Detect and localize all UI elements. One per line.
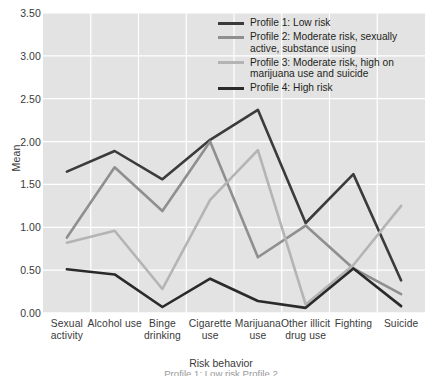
y-axis-title: Mean: [10, 128, 22, 188]
legend-item-3[interactable]: Profile 3: Moderate risk, high on mariju…: [218, 57, 418, 80]
y-tick-label: 1.00: [3, 221, 41, 233]
legend-item-2[interactable]: Profile 2: Moderate risk, sexually activ…: [218, 31, 418, 54]
legend-line-swatch-icon: [218, 36, 244, 39]
legend-line-swatch-icon: [218, 61, 244, 64]
legend-item-4[interactable]: Profile 4: High risk: [218, 82, 418, 94]
legend-line-swatch-icon: [218, 87, 244, 90]
y-tick-label: 3.50: [3, 7, 41, 19]
x-tick-label: Suicide: [370, 318, 432, 330]
chart-legend: Profile 1: Low riskProfile 2: Moderate r…: [218, 17, 418, 97]
legend-item-label: Profile 2: Moderate risk, sexually activ…: [250, 31, 418, 54]
legend-item-label: Profile 4: High risk: [250, 82, 333, 94]
y-tick-label: 2.50: [3, 93, 41, 105]
y-tick-label: 1.50: [3, 178, 41, 190]
y-tick-label: 3.00: [3, 50, 41, 62]
y-tick-label: 2.00: [3, 136, 41, 148]
y-tick-label: 0.50: [3, 264, 41, 276]
legend-line-swatch-icon: [218, 22, 244, 25]
legend-item-label: Profile 3: Moderate risk, high on mariju…: [250, 57, 418, 80]
line-chart: 0.000.501.001.502.002.503.003.50 Mean Se…: [0, 0, 442, 376]
legend-item-label: Profile 1: Low risk: [250, 17, 330, 29]
caption-fragment: Profile 1: Low risk Profile 2: [0, 368, 442, 376]
y-axis-ticks: 0.000.501.001.502.002.503.003.50: [0, 0, 41, 376]
legend-item-1[interactable]: Profile 1: Low risk: [218, 17, 418, 29]
